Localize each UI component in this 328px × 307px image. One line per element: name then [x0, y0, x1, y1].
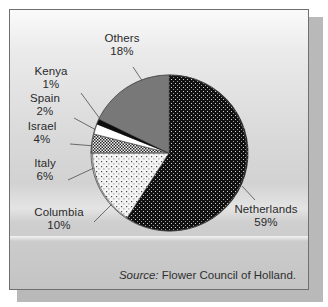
pie-label-spain-percent: 2% — [16, 105, 74, 118]
pie-label-israel-percent: 4% — [13, 133, 71, 146]
pie-label-kenya: Kenya 1% — [20, 65, 82, 91]
pie-label-others-name: Others — [86, 32, 158, 45]
pie-label-others: Others 18% — [86, 32, 158, 58]
pie-label-spain: Spain 2% — [16, 92, 74, 118]
pie-label-israel-name: Israel — [13, 120, 71, 133]
pie-label-netherlands-percent: 59% — [225, 216, 307, 229]
pie-label-italy-name: Italy — [20, 157, 70, 170]
pie-label-netherlands-name: Netherlands — [225, 203, 307, 216]
pie-label-italy-percent: 6% — [20, 170, 70, 183]
leader-line-netherlands — [242, 186, 255, 200]
pie-label-italy: Italy 6% — [20, 157, 70, 183]
figure-frame: Others 18% Kenya 1% Spain 2% Israel 4% I… — [9, 9, 309, 290]
pie-label-israel: Israel 4% — [13, 120, 71, 146]
pie-chart-svg — [10, 10, 309, 290]
pie-label-spain-name: Spain — [16, 92, 74, 105]
pie-label-columbia: Columbia 10% — [23, 206, 95, 232]
pie-label-kenya-name: Kenya — [20, 65, 82, 78]
pie-label-others-percent: 18% — [86, 45, 158, 58]
pie-label-columbia-name: Columbia — [23, 206, 95, 219]
source-note: Source: Flower Council of Holland. — [119, 269, 296, 281]
pie-chart-figure: Others 18% Kenya 1% Spain 2% Israel 4% I… — [0, 0, 328, 307]
pie-label-columbia-percent: 10% — [23, 219, 95, 232]
pie-label-netherlands: Netherlands 59% — [225, 203, 307, 229]
pie-label-kenya-percent: 1% — [20, 78, 82, 91]
source-label: Source: — [119, 269, 159, 281]
source-value: Flower Council of Holland. — [162, 269, 296, 281]
